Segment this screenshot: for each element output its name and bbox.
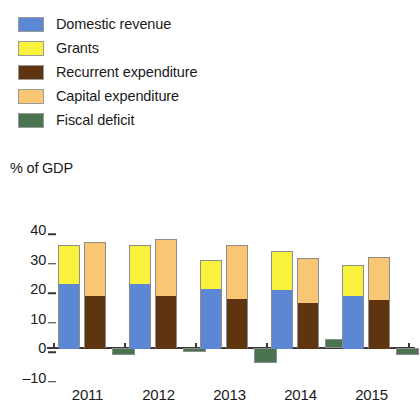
legend-label-capital-expenditure: Capital expenditure [56,89,179,104]
bar-segment-capital-expenditure [85,243,105,296]
legend-swatch-domestic-revenue [18,17,44,32]
bar-segment-grants [59,246,79,284]
bar-segment-domestic-revenue [130,284,150,349]
y-tick-label-40: 40 [0,223,46,238]
bar-segment-capital-expenditure [298,259,318,303]
x-tick-label-2012: 2012 [142,386,175,403]
bar-segment-grants [272,252,292,290]
y-tick-label-neg10: –10 [0,370,46,385]
revenue-bar-2012 [129,245,151,348]
bar-segment-domestic-revenue [272,290,292,349]
y-tick-mark [48,351,56,353]
y-tick-mark [48,263,56,265]
fiscal-deficit-bar-2011 [112,348,135,355]
legend-swatch-capital-expenditure [18,89,44,104]
y-tick-mark [48,322,56,324]
legend-swatch-fiscal-deficit [18,113,44,128]
expenditure-bar-2012 [155,239,177,348]
x-tick-label-2015: 2015 [355,386,388,403]
legend-label-fiscal-deficit: Fiscal deficit [56,113,134,128]
expenditure-bar-2015 [368,257,390,348]
y-axis-title: % of GDP [10,160,73,176]
y-tick-label-10: 10 [0,311,46,326]
legend-item-fiscal-deficit: Fiscal deficit [18,108,408,132]
revenue-bar-2013 [200,260,222,349]
chart-legend: Domestic revenue Grants Recurrent expend… [18,12,408,132]
expenditure-bar-2013 [226,245,248,348]
y-tick-mark [48,381,56,383]
revenue-bar-2011 [58,245,80,348]
revenue-bar-2015 [342,265,364,348]
bar-segment-capital-expenditure [227,246,247,299]
legend-label-domestic-revenue: Domestic revenue [56,17,171,32]
bar-segment-recurrent-expenditure [227,299,247,349]
bar-segment-domestic-revenue [201,289,221,349]
bar-segment-domestic-revenue [343,296,363,349]
expenditure-bar-2011 [84,242,106,348]
bar-segment-grants [130,246,150,284]
x-tick-label-2013: 2013 [213,386,246,403]
bar-segment-recurrent-expenditure [85,296,105,349]
fiscal-deficit-bar-2013 [254,348,277,363]
legend-item-recurrent-expenditure: Recurrent expenditure [18,60,408,84]
chart-plot-area: 403020100–10 20112012201320142015 [0,190,420,390]
expenditure-bar-2014 [297,258,319,348]
x-tick-label-2011: 2011 [72,386,103,403]
legend-item-grants: Grants [18,36,408,60]
legend-item-capital-expenditure: Capital expenditure [18,84,408,108]
y-tick-label-0: 0 [0,341,46,356]
bar-segment-recurrent-expenditure [369,300,389,349]
bar-segment-recurrent-expenditure [298,303,318,349]
revenue-bar-2014 [271,251,293,348]
x-tick-label-2014: 2014 [284,386,317,403]
bar-segment-capital-expenditure [156,240,176,296]
legend-swatch-recurrent-expenditure [18,65,44,80]
legend-swatch-grants [18,41,44,56]
axis-nub [53,343,55,348]
y-tick-mark [48,292,56,294]
bar-segment-grants [343,266,363,296]
legend-item-domestic-revenue: Domestic revenue [18,12,408,36]
bar-segment-recurrent-expenditure [156,296,176,349]
bar-segment-grants [201,261,221,289]
legend-label-recurrent-expenditure: Recurrent expenditure [56,65,197,80]
y-tick-label-30: 30 [0,252,46,267]
y-tick-label-20: 20 [0,282,46,297]
y-tick-mark [48,233,56,235]
legend-label-grants: Grants [56,41,99,56]
bar-segment-domestic-revenue [59,284,79,349]
bar-segment-capital-expenditure [369,258,389,301]
fiscal-deficit-bar-2015 [396,348,419,355]
